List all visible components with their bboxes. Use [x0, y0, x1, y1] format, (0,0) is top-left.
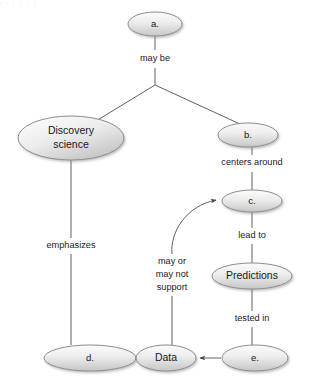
node-predictions[interactable]: Predictions — [212, 263, 292, 289]
edge-fork-to-discovery — [96, 85, 155, 121]
edge-label-may-or-line1: may or — [158, 256, 186, 266]
edge-fork-to-b — [155, 85, 240, 124]
node-d[interactable]: d. — [44, 345, 136, 371]
node-c-label: c. — [248, 195, 255, 206]
concept-map-diagram: a. Discovery science b. c. Predictions d… — [0, 0, 312, 379]
node-c[interactable]: c. — [222, 190, 282, 212]
node-e[interactable]: e. — [222, 345, 288, 371]
node-a[interactable]: a. — [128, 12, 182, 36]
node-data[interactable]: Data — [136, 345, 196, 371]
node-discovery-science-label-line2: science — [53, 138, 89, 150]
node-b-label: b. — [244, 129, 252, 140]
node-data-label: Data — [155, 351, 177, 363]
node-d-label: d. — [86, 352, 94, 363]
node-b[interactable]: b. — [218, 123, 278, 147]
node-e-label: e. — [251, 352, 259, 363]
edge-label-centers-around: centers around — [221, 157, 282, 167]
edge-label-tested-in: tested in — [235, 313, 270, 323]
edge-label-may-or-line2: may not — [156, 269, 189, 279]
node-discovery-science-label-line1: Discovery — [48, 124, 95, 136]
edge-label-may-be: may be — [140, 53, 170, 63]
node-a-label: a. — [151, 18, 159, 29]
edge-label-may-or-line3: support — [157, 282, 188, 292]
node-predictions-label: Predictions — [226, 269, 278, 281]
node-discovery-science[interactable]: Discovery science — [18, 116, 124, 160]
edge-label-lead-to: lead to — [238, 230, 266, 240]
edge-label-emphasizes: emphasizes — [46, 240, 95, 250]
edge-support-curve-to-c — [172, 200, 216, 254]
